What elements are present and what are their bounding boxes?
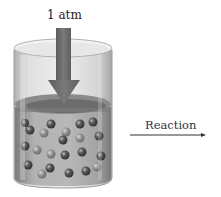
reaction-arrow-icon [130,133,206,137]
reaction-diagram [0,0,221,197]
reaction-label: Reaction [145,118,196,132]
